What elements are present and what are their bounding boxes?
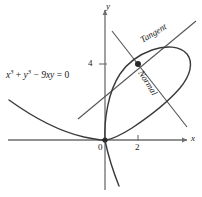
curve-equation-label: x3 + y3 − 9xy = 0 [6, 69, 69, 81]
equation-xy-term: 9xy [41, 70, 54, 80]
x-tick-label-2: 2 [135, 143, 140, 152]
equation-plus: + [13, 70, 23, 80]
y-tick-label-4: 4 [88, 59, 93, 68]
origin-label: 0 [98, 143, 103, 152]
tangent-line [78, 21, 196, 119]
y-axis-label: y [106, 2, 110, 11]
curve-upper-branch [9, 100, 105, 141]
equation-minus: − [31, 70, 41, 80]
x-axis-label: x [191, 134, 195, 143]
origin-node-dot [102, 137, 107, 142]
curve-lower-branch [105, 141, 119, 187]
equation-equals-zero: = 0 [54, 70, 69, 80]
folium-of-descartes-figure: y x 0 2 4 x3 + y3 − 9xy = 0 Tangent Norm… [0, 0, 202, 197]
figure-canvas [0, 0, 202, 197]
tangent-point-dot [135, 61, 141, 67]
